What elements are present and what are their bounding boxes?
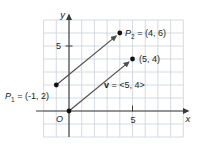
x-tick-label: 5 — [130, 115, 135, 125]
coordinate-plane: y x 5 5 O P1 = (-1, 2) P2 = (4, 6) (5, 4… — [0, 0, 197, 146]
p3-point — [130, 57, 135, 62]
y-tick-label: 5 — [56, 41, 61, 51]
p1-coords: = (-1, 2) — [15, 91, 49, 101]
origin-point — [67, 109, 72, 114]
vector-diagram: y x 5 5 O P1 = (-1, 2) P2 = (4, 6) (5, 4… — [0, 0, 197, 146]
p3-label: (5, 4) — [139, 54, 160, 64]
vector-v-label: v = <5, 4> — [104, 80, 145, 90]
p2-coords: = (4, 6) — [135, 28, 166, 38]
vector-v-components: = <5, 4> — [109, 80, 145, 90]
origin-label: O — [56, 114, 63, 124]
p1-point — [54, 83, 59, 88]
p2-point — [117, 31, 122, 36]
